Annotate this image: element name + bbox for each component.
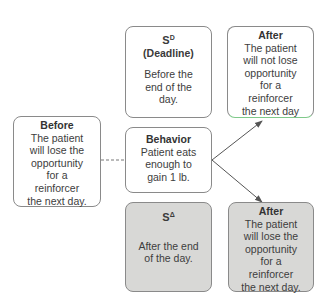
after-top-box: After The patient will not lose opportun… xyxy=(227,26,314,118)
s-delta-text: After the end of the day. xyxy=(138,240,198,265)
after-top-title: After xyxy=(258,29,283,42)
after-top-text: The patient will not lose opportunity fo… xyxy=(242,42,299,118)
after-bottom-text: The patient will lose the opportunity fo… xyxy=(241,218,300,294)
sd-deadline-box: SD (Deadline) Before the end of the day. xyxy=(125,26,212,118)
behavior-text: Patient eats enough to gain 1 lb. xyxy=(141,146,196,184)
after-bottom-box: After The patient will lose the opportun… xyxy=(228,202,314,292)
before-title: Before xyxy=(40,119,73,132)
s-delta-title: SΔ xyxy=(162,209,174,224)
s-delta-box: SΔ After the end of the day. xyxy=(125,202,212,292)
arrow-to-after-top xyxy=(212,121,262,160)
after-bottom-title: After xyxy=(259,205,284,218)
before-box: Before The patient will lose the opportu… xyxy=(13,116,101,207)
behavior-title: Behavior xyxy=(146,133,191,146)
sd-text: Before the end of the day. xyxy=(144,68,192,106)
arrow-to-after-bottom xyxy=(212,160,262,202)
before-text: The patient will lose the opportunity fo… xyxy=(27,132,86,208)
behavior-box: Behavior Patient eats enough to gain 1 l… xyxy=(125,127,212,193)
sd-subtitle: (Deadline) xyxy=(143,47,194,60)
sd-title: SD xyxy=(162,32,174,47)
